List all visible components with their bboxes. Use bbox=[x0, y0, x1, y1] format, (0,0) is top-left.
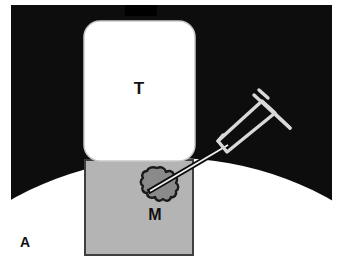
figure-illustration: T M A bbox=[0, 0, 342, 263]
muscle-label: M bbox=[148, 206, 161, 223]
panel-label: A bbox=[20, 234, 30, 250]
figure-panel-a: T M A bbox=[0, 0, 342, 263]
tissue-notch bbox=[125, 5, 157, 16]
tumor-label: T bbox=[134, 79, 145, 98]
